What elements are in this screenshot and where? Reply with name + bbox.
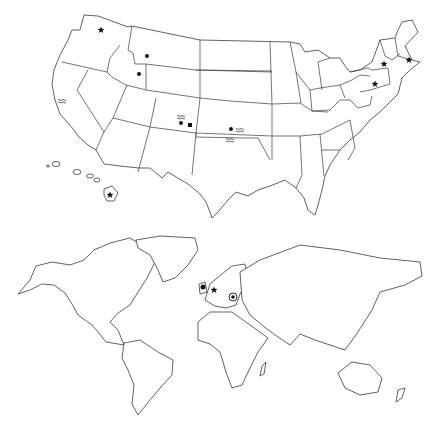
new-zealand xyxy=(396,388,405,402)
madagascar xyxy=(260,362,266,376)
colorado-dot-marker-icon xyxy=(179,121,183,125)
world-map xyxy=(18,236,422,415)
africa xyxy=(198,312,268,388)
australia xyxy=(338,362,382,395)
map-canvas xyxy=(0,0,446,434)
idaho-dot-marker-icon xyxy=(137,72,141,76)
uk-circle-marker-icon xyxy=(201,285,206,290)
south-america xyxy=(122,340,173,415)
colorado-square-marker-icon xyxy=(188,123,192,127)
north-america xyxy=(18,238,155,345)
hawaii-islands xyxy=(47,162,119,202)
montana-dot-marker-icon xyxy=(145,54,149,58)
kansas-dot-marker-icon xyxy=(229,127,233,131)
usa-map xyxy=(0,0,446,434)
asia xyxy=(240,245,422,350)
